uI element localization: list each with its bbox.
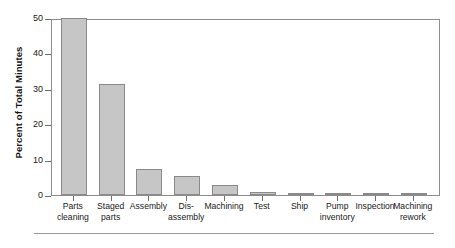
bar [99,84,125,195]
y-tick-mark [45,196,51,197]
y-tick-label: 0 [26,190,43,201]
plot-area [51,19,440,196]
y-tick-label: 10 [26,154,43,165]
bar [174,176,200,195]
bar [136,169,162,195]
bar [401,193,427,195]
y-tick-label: 20 [26,119,43,130]
y-tick-label: 50 [26,13,43,24]
y-tick-label: 40 [26,48,43,59]
bar [288,193,314,195]
bar [250,192,276,195]
bar [61,18,87,195]
bottom-rule [34,233,434,234]
bar [363,193,389,195]
bar-series [52,20,439,195]
bar [325,193,351,195]
y-axis-title: Percent of Total Minutes [13,18,24,188]
chart-page: Percent of Total Minutes 01020304050 Par… [0,0,455,248]
x-tick-label: Machining rework [385,201,441,222]
y-tick-label: 30 [26,83,43,94]
bar [212,185,238,195]
